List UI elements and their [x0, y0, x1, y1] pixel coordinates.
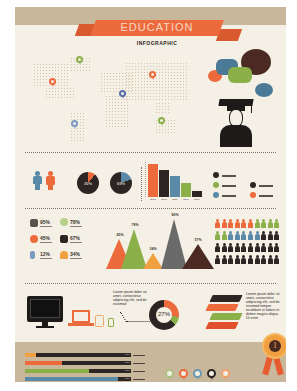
stat-value: 12%: [40, 251, 50, 257]
map-pin-icon[interactable]: [149, 71, 156, 78]
section-divider: [25, 208, 276, 209]
stat-value: 95%: [40, 219, 50, 225]
bar: [159, 170, 169, 197]
person-icon: [255, 219, 260, 228]
speech-bubble-icon: [228, 67, 252, 83]
infographic-sheet: EDUCATION INFOGRAPHIC: [15, 7, 286, 382]
person-icon: [261, 255, 266, 264]
legend-dot: [250, 192, 256, 198]
person-icon: [215, 255, 220, 264]
legend-dot: [250, 182, 256, 188]
person-icon: [235, 255, 240, 264]
person-icon: [222, 255, 227, 264]
person-icon: [235, 231, 240, 240]
person-icon: [235, 243, 240, 252]
person-icon: [235, 219, 240, 228]
person-icon: [248, 255, 253, 264]
person-icon: [248, 243, 253, 252]
callout-text: Lorem ipsum dolor sit amet, consectetur …: [113, 290, 149, 306]
legend-label: [222, 175, 236, 177]
legend-label: [222, 185, 236, 187]
bar: [192, 191, 202, 197]
map-pin-icon[interactable]: [49, 78, 56, 85]
legend-label: [222, 195, 236, 197]
male-percent: 30%: [77, 181, 99, 186]
vertical-divider: [141, 167, 142, 201]
monitor-icon: [27, 296, 63, 322]
map-pin-icon[interactable]: [179, 369, 188, 378]
section-divider: [25, 152, 276, 153]
people-grid: [215, 219, 281, 267]
books-text: Lorem ipsum dolor sit amet, consectetur …: [246, 292, 282, 320]
person-icon: [255, 243, 260, 252]
map-pin-icon[interactable]: [221, 369, 230, 378]
person-icon: [274, 219, 279, 228]
person-icon: [255, 231, 260, 240]
person-icon: [228, 243, 233, 252]
map-pin-icon[interactable]: [119, 90, 126, 97]
progress-bar: 60%: [25, 369, 131, 373]
person-icon: [241, 219, 246, 228]
progress-bar: 10%: [25, 353, 131, 357]
legend-label: [259, 185, 273, 187]
globe-icon: [30, 235, 38, 243]
progress-bar: 35%: [25, 361, 131, 365]
map-pin-icon[interactable]: [165, 369, 174, 378]
flask-icon: [60, 251, 68, 259]
map-pin-icon[interactable]: [158, 117, 165, 124]
book-icon: [30, 219, 38, 227]
mountain-label: 78%: [128, 223, 142, 227]
map-pin-icon[interactable]: [207, 369, 216, 378]
phone-icon: [108, 318, 114, 327]
person-icon: [228, 231, 233, 240]
person-icon: [215, 243, 220, 252]
lightbulb-icon: [60, 218, 68, 226]
bar-label: 2013: [159, 198, 169, 201]
progress-bar: 88%: [25, 377, 131, 381]
person-icon: [241, 243, 246, 252]
stat-value: 67%: [70, 235, 80, 241]
person-icon: [241, 255, 246, 264]
person-icon: [261, 219, 266, 228]
bar-label: 2010: [181, 198, 191, 201]
microscope-icon: [30, 251, 35, 259]
person-icon: [268, 243, 273, 252]
stat-value: 34%: [70, 251, 80, 257]
person-icon: [222, 219, 227, 228]
person-icon: [261, 243, 266, 252]
page-subtitle: INFOGRAPHIC: [93, 40, 221, 46]
bar: [181, 183, 191, 197]
tablet-icon: [95, 315, 104, 327]
person-icon: [268, 219, 273, 228]
bar-label: 2012: [148, 198, 158, 201]
mountain-bar: [182, 244, 214, 269]
person-icon: [274, 255, 279, 264]
person-icon: [274, 231, 279, 240]
mountain-label: 45%: [113, 233, 127, 237]
laptop-icon: [72, 310, 90, 323]
legend-label: [259, 195, 273, 197]
section-divider: [25, 283, 276, 284]
person-icon: [228, 255, 233, 264]
person-icon: [215, 219, 220, 228]
bar-chart: [145, 162, 205, 197]
bar: [148, 164, 158, 197]
donut-label: 27%: [152, 311, 176, 317]
person-icon: [222, 231, 227, 240]
speech-bubble-icon: [255, 83, 273, 97]
map-pin-icon[interactable]: [71, 120, 78, 127]
person-icon: [228, 219, 233, 228]
person-icon: [274, 243, 279, 252]
medal-label: 1: [269, 340, 281, 352]
person-icon: [215, 231, 220, 240]
map-pin-icon[interactable]: [193, 369, 202, 378]
person-icon: [255, 255, 260, 264]
map-pin-icon[interactable]: [76, 56, 83, 63]
person-icon: [248, 219, 253, 228]
mountain-bar: [143, 253, 163, 269]
stat-value: 78%: [70, 219, 80, 225]
person-icon: [268, 255, 273, 264]
person-icon: [268, 231, 273, 240]
page-title: EDUCATION: [93, 21, 221, 33]
stat-value: 45%: [40, 235, 50, 241]
